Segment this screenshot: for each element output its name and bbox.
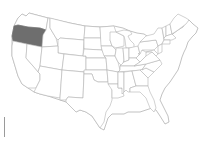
state-north-dakota[interactable]: [84, 26, 101, 38]
state-iowa[interactable]: [101, 46, 116, 56]
state-kansas[interactable]: [86, 58, 107, 70]
state-wyoming[interactable]: [58, 38, 84, 56]
state-arkansas[interactable]: [107, 70, 118, 84]
state-maine[interactable]: [170, 14, 189, 34]
state-florida[interactable]: [130, 86, 156, 112]
state-new-mexico[interactable]: [60, 70, 84, 100]
state-south-dakota[interactable]: [84, 38, 102, 50]
inset-divider-line: [4, 117, 5, 137]
state-indiana[interactable]: [123, 48, 129, 62]
state-colorado[interactable]: [62, 54, 86, 72]
us-map: [0, 0, 212, 144]
state-montana[interactable]: [50, 18, 85, 40]
state-new-jersey[interactable]: [158, 44, 162, 54]
